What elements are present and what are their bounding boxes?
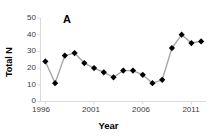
data-point bbox=[101, 69, 107, 75]
plot-area bbox=[0, 0, 217, 136]
data-point bbox=[52, 80, 58, 86]
data-point bbox=[91, 65, 97, 71]
data-markers bbox=[42, 32, 204, 87]
data-point bbox=[130, 68, 136, 74]
data-point bbox=[62, 52, 68, 58]
chart-figure: Total N 50 40 30 20 10 0 1996 2001 2006 … bbox=[0, 0, 217, 136]
data-point bbox=[159, 77, 165, 83]
data-point bbox=[198, 38, 204, 44]
data-line bbox=[45, 35, 201, 83]
data-point bbox=[42, 58, 48, 64]
